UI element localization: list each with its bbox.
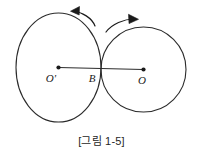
right-rotation-arrowhead-icon: [129, 14, 139, 23]
label-right-center: O: [138, 74, 146, 86]
label-tangent-point: B: [89, 72, 96, 84]
label-left-center: O': [46, 72, 57, 84]
left-center-dot: [56, 65, 60, 69]
figure-container: O' B O [그림 1-5]: [0, 0, 203, 161]
left-rotation-arrowhead-icon: [71, 7, 80, 16]
right-center-dot: [141, 67, 145, 71]
figure-caption: [그림 1-5]: [0, 134, 203, 148]
